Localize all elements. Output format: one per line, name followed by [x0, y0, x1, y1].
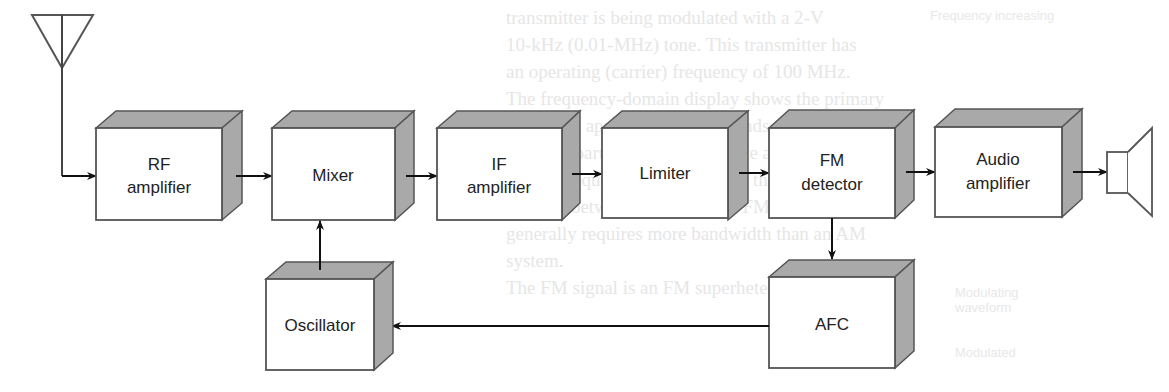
block-audio-amplifier: Audio amplifier — [935, 109, 1082, 217]
block-if-amplifier: IF amplifier — [437, 111, 580, 220]
antenna-icon — [32, 15, 96, 176]
block-oscillator: Oscillator — [266, 262, 393, 370]
speaker-icon — [1107, 128, 1152, 216]
block-label: amplifier — [467, 178, 532, 197]
block-label: RF — [148, 155, 171, 174]
block-label: AFC — [815, 315, 849, 334]
block-label: amplifier — [127, 178, 192, 197]
block-limiter: Limiter — [602, 111, 748, 220]
block-mixer: Mixer — [272, 111, 414, 220]
block-label: detector — [801, 175, 863, 194]
block-label: Audio — [976, 150, 1019, 169]
block-label: FM — [820, 151, 845, 170]
block-fm-detector: FM detector — [769, 110, 914, 218]
block-label: Mixer — [312, 166, 354, 185]
block-rf-amplifier: RF amplifier — [96, 111, 242, 220]
receiver-block-diagram: RF amplifier Mixer IF amplifier Limiter … — [0, 0, 1169, 392]
block-label: IF — [491, 155, 506, 174]
block-label: amplifier — [966, 174, 1031, 193]
block-label: Oscillator — [285, 316, 356, 335]
block-label: Limiter — [639, 164, 690, 183]
block-afc: AFC — [769, 260, 914, 368]
